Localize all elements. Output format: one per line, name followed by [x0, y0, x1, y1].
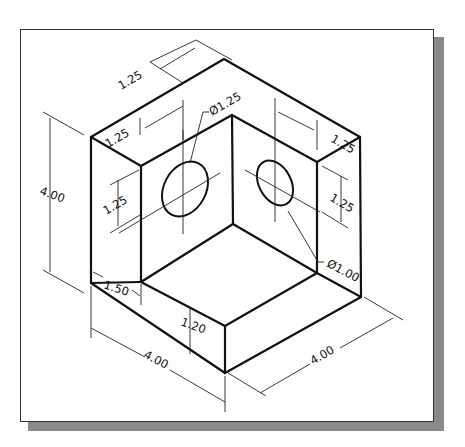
dim-label-front-width: 4.00 — [142, 347, 171, 371]
left-hole — [153, 154, 217, 225]
dim-label-top-depth: 1.25 — [116, 68, 145, 93]
leader-right-hole — [288, 211, 324, 262]
dim-label-right-hole-height: 1.25 — [328, 190, 357, 215]
drawing-canvas: 1.25 1.25 1.25 Ø1.25 Ø1.00 1.25 — [0, 0, 465, 447]
dim-label-overall-height: 4.00 — [38, 184, 67, 206]
dim-front-width — [91, 286, 225, 412]
dim-right-width — [228, 297, 403, 396]
center-lines — [119, 130, 320, 234]
dim-label-left-hole-height: 1.25 — [101, 193, 130, 218]
dim-label-left-wall: 1.25 — [103, 126, 132, 151]
dim-label-step-width: 1.50 — [102, 278, 131, 299]
isometric-part: 1.25 1.25 1.25 Ø1.25 Ø1.00 1.25 — [0, 0, 465, 447]
dim-overall-height — [43, 112, 84, 293]
dim-left-wall-1.25 — [140, 100, 183, 140]
dim-label-left-hole: Ø1.25 — [207, 89, 244, 118]
dim-label-right-width: 4.00 — [308, 343, 337, 368]
dim-label-step-height: 1.20 — [179, 315, 208, 337]
